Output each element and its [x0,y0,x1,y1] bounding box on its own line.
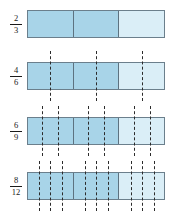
bar-segment-shaded [74,63,120,89]
fraction-bar [27,62,165,90]
fraction-label: 23 [5,10,27,38]
fraction-denominator: 12 [12,187,21,197]
fraction-numerator: 8 [14,176,18,186]
fraction-label: 46 [5,62,27,90]
fraction-denominator: 6 [14,77,18,87]
fraction-denominator: 9 [14,132,18,142]
bar-segment-shaded [74,11,120,37]
bar-segment-unshaded [119,173,164,199]
fraction-denominator: 3 [14,25,18,35]
fraction-row: 812 [0,161,176,211]
fraction-numerator: 6 [14,121,18,131]
bar-segment-unshaded [119,118,164,144]
fraction-bar-diagram: 234669812 [0,0,176,217]
bar-segment-shaded [74,118,120,144]
fraction-bar [27,10,165,38]
bar-segment-shaded [74,173,120,199]
bar-segment-shaded [28,118,74,144]
bar-segment-shaded [28,63,74,89]
fraction-bar [27,172,165,200]
fraction-row: 69 [0,106,176,156]
fraction-label: 69 [5,117,27,145]
fraction-row: 46 [0,51,176,101]
fraction-numerator: 4 [14,66,18,76]
fraction-numerator: 2 [14,14,18,24]
fraction-label: 812 [5,172,27,200]
bar-segment-shaded [28,173,74,199]
bar-segment-unshaded [119,63,164,89]
fraction-row: 23 [0,10,176,38]
fraction-bar [27,117,165,145]
bar-segment-unshaded [119,11,164,37]
bar-segment-shaded [28,11,74,37]
